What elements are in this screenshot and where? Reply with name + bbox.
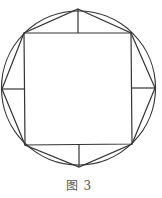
inscribed-square bbox=[24, 33, 132, 145]
figure-caption: 图 3 bbox=[0, 176, 158, 193]
inscribed-square-octagon-diagram bbox=[0, 0, 162, 172]
